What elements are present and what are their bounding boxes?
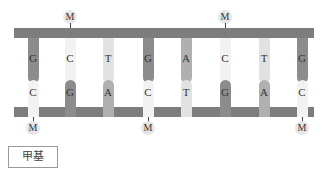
top-strand-backbone <box>14 28 314 38</box>
base-label-bottom: A <box>98 86 118 98</box>
base-label-top: C <box>215 52 235 64</box>
base-label-bottom: T <box>176 86 196 98</box>
base-label-top: T <box>98 52 118 64</box>
methyl-link <box>225 23 226 28</box>
base-label-bottom: A <box>254 86 274 98</box>
methyl-mark-bottom: M <box>295 121 309 135</box>
methyl-mark-bottom: M <box>26 121 40 135</box>
base-label-top: G <box>23 52 43 64</box>
base-label-top: A <box>176 52 196 64</box>
base-label-bottom: G <box>215 86 235 98</box>
base-label-bottom: C <box>138 86 158 98</box>
methyl-mark-top: M <box>218 10 232 24</box>
methyl-link <box>70 23 71 28</box>
methyl-mark-bottom: M <box>141 121 155 135</box>
base-label-top: G <box>292 52 312 64</box>
base-label-top: G <box>138 52 158 64</box>
base-label-bottom: G <box>60 86 80 98</box>
methyl-mark-top: M <box>63 10 77 24</box>
base-label-top: T <box>254 52 274 64</box>
base-label-top: C <box>60 52 80 64</box>
legend-methyl: 甲基 <box>8 146 58 168</box>
base-label-bottom: C <box>292 86 312 98</box>
base-label-bottom: C <box>23 86 43 98</box>
